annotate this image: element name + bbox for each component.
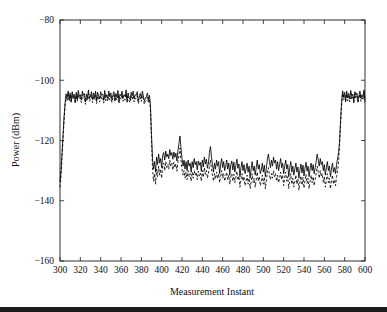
- x-axis-title: Measurement Instant: [170, 286, 254, 297]
- x-tick-label: 460: [216, 265, 231, 275]
- x-tick-label: 440: [195, 265, 210, 275]
- x-tick-label: 300: [53, 265, 68, 275]
- y-tick-label: −140: [34, 196, 54, 206]
- x-tick-label: 480: [236, 265, 251, 275]
- x-tick-label: 560: [317, 265, 332, 275]
- y-tick-label: −120: [34, 136, 54, 146]
- x-tick-label: 540: [297, 265, 312, 275]
- y-axis-title: Power (dBm): [10, 113, 22, 167]
- x-tick-label: 600: [358, 265, 373, 275]
- x-tick-label: 340: [94, 265, 109, 275]
- x-tick-label: 380: [134, 265, 149, 275]
- y-tick-label: −80: [39, 15, 54, 25]
- x-tick-label: 500: [256, 265, 271, 275]
- x-tick-label: 520: [277, 265, 292, 275]
- y-tick-label: −160: [34, 256, 54, 266]
- power-vs-measurement-instant-chart: 3003203403603804004204404604805005205405…: [0, 0, 387, 312]
- x-tick-label: 420: [175, 265, 190, 275]
- x-tick-label: 360: [114, 265, 129, 275]
- x-tick-label: 580: [338, 265, 353, 275]
- x-tick-label: 400: [155, 265, 170, 275]
- figure-canvas: 3003203403603804004204404604805005205405…: [0, 0, 387, 312]
- y-tick-label: −100: [34, 76, 54, 86]
- x-tick-label: 320: [73, 265, 88, 275]
- page-edge-band: [0, 307, 387, 312]
